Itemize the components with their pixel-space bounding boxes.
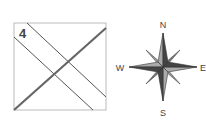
compass-rose-icon [129,33,197,101]
panel-number: 4 [19,26,27,41]
compass-east-label: E [200,63,206,73]
square-panel: 4 [14,23,106,110]
compass-main-points [129,33,197,101]
compass-south-label: S [160,108,166,118]
diagram-canvas: 4 N S W E [0,0,206,129]
compass-north-label: N [160,20,167,30]
compass-west-label: W [116,63,125,73]
